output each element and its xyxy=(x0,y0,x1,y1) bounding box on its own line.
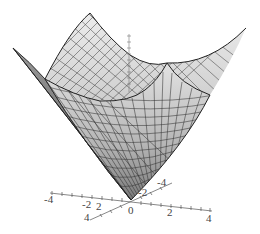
back-surface xyxy=(0,0,260,110)
y-tick-label: 4 xyxy=(84,211,90,223)
y-tick-label: -4 xyxy=(157,176,167,188)
x-tick-label: -4 xyxy=(44,193,54,205)
x-tick-label: 4 xyxy=(206,212,212,224)
x-tick-label: -2 xyxy=(82,198,91,210)
y-tick-label: -2 xyxy=(138,186,147,198)
x-tick-label: 0 xyxy=(128,204,134,216)
x-tick-label: 2 xyxy=(167,206,173,218)
y-tick-label: 2 xyxy=(96,200,102,212)
surface-plot: -4 -2 0 2 4 4 2 -2 -4 xyxy=(0,0,260,234)
